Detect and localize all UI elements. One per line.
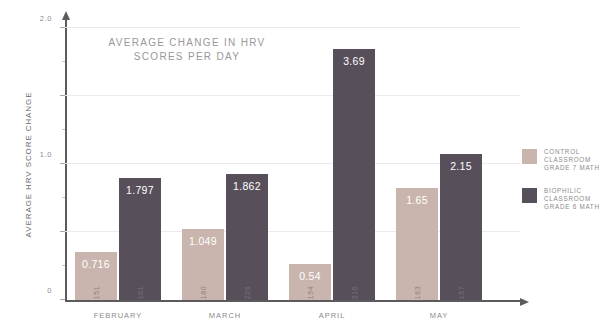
y-tick-minor (62, 265, 66, 266)
x-category-label-march: MARCH (209, 311, 242, 320)
y-tick-minor (62, 197, 66, 198)
bar-sample-count: 226 (244, 286, 251, 299)
legend: CONTROL CLASSROOM GRADE 7 MATHBIOPHILIC … (522, 148, 610, 225)
bar-sample-count: 216 (351, 286, 358, 299)
bar-control-april: 0.54194 (289, 264, 331, 301)
bar-value-label: 1.862 (226, 180, 268, 192)
bar-sample-count: 163 (414, 286, 421, 299)
x-axis-arrow-icon (520, 298, 529, 306)
legend-swatch (522, 149, 537, 164)
bar-biophilic-february: 1.797161 (119, 178, 161, 300)
gridline (65, 27, 520, 28)
y-tick-label: 2.0 (40, 13, 52, 22)
legend-label: BIOPHILIC CLASSROOM GRADE 6 MATH (544, 187, 600, 212)
x-category-label-february: FEBRUARY (94, 311, 143, 320)
x-category-label-may: MAY (430, 311, 449, 320)
bar-value-label: 1.65 (396, 194, 438, 206)
y-tick-major: 3.0 (60, 95, 65, 96)
bar-biophilic-march: 1.862226 (226, 174, 268, 301)
legend-item-control[interactable]: CONTROL CLASSROOM GRADE 7 MATH (522, 148, 610, 173)
y-tick-minor (62, 129, 66, 130)
legend-item-biophilic[interactable]: BIOPHILIC CLASSROOM GRADE 6 MATH (522, 187, 610, 212)
y-axis-line (65, 18, 67, 302)
bar-value-label: 1.797 (119, 184, 161, 196)
bar-value-label: 0.54 (289, 270, 331, 282)
y-tick-major: 1.0 (60, 231, 65, 232)
bar-control-february: 0.716151 (75, 252, 117, 301)
bar-control-march: 1.049180 (182, 229, 224, 300)
bar-sample-count: 194 (307, 286, 314, 299)
bar-biophilic-may: 2.15157 (440, 154, 482, 300)
legend-label: CONTROL CLASSROOM GRADE 7 MATH (544, 148, 600, 173)
bar-control-may: 1.65163 (396, 188, 438, 300)
gridline (65, 95, 520, 96)
y-axis-title: AVERAGE HRV SCORE CHANGE (24, 75, 33, 255)
y-tick-major: 0 (60, 299, 65, 300)
y-tick-minor (62, 61, 66, 62)
bar-biophilic-april: 3.69216 (333, 49, 375, 300)
hrv-bar-chart: AVERAGE HRV SCORE CHANGE AVERAGE CHANGE … (0, 0, 611, 335)
bar-sample-count: 151 (93, 286, 100, 299)
legend-swatch (522, 188, 537, 203)
bar-value-label: 2.15 (440, 160, 482, 172)
bar-value-label: 1.049 (182, 235, 224, 247)
plot-area: 01.02.03.04.0 0.7161511.7971611.0491801.… (65, 22, 520, 302)
y-axis-arrow-icon (62, 11, 70, 20)
bar-value-label: 0.716 (75, 258, 117, 270)
y-tick-label: 0 (47, 286, 52, 295)
bar-sample-count: 180 (200, 286, 207, 299)
bar-sample-count: 157 (458, 286, 465, 299)
x-axis-line (65, 300, 520, 302)
x-category-label-april: APRIL (319, 311, 346, 320)
y-tick-major: 2.0 (60, 163, 65, 164)
y-tick-label: 1.0 (40, 150, 52, 159)
y-tick-major: 4.0 (60, 27, 65, 28)
bar-sample-count: 161 (137, 286, 144, 299)
bar-value-label: 3.69 (333, 55, 375, 67)
